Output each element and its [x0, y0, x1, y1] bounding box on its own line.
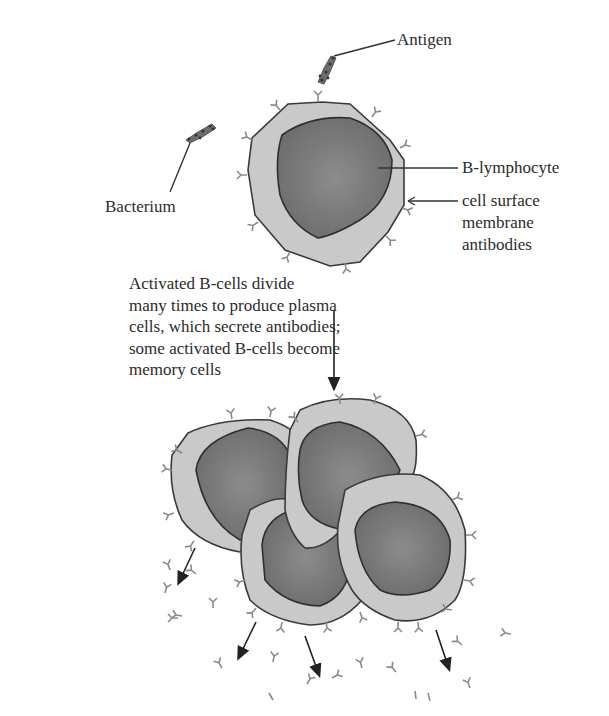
caption-line-5: memory cells: [129, 359, 340, 381]
surface-antibodies-line-3: antibodies: [462, 234, 540, 256]
antigen-label: Antigen: [397, 29, 452, 51]
surface-antibodies-line-2: membrane: [462, 212, 540, 234]
bacterium-particle: [186, 124, 216, 143]
caption-line-2: many times to produce plasma: [129, 295, 340, 317]
surface-antibodies-line-1: cell surface: [462, 190, 540, 212]
plasma-cell-cluster: [161, 393, 476, 632]
caption-line-3: cells, which secrete antibodies;: [129, 316, 340, 338]
caption-line-4: some activated B-cells become: [129, 338, 340, 360]
caption-line-1: Activated B-cells divide: [129, 273, 340, 295]
bacterium-leader-line: [170, 143, 190, 192]
bacterium-label: Bacterium: [105, 196, 176, 218]
surface-antibodies-label: cell surface membrane antibodies: [462, 190, 540, 256]
b-lymphocyte-cell: [237, 91, 413, 274]
activation-caption: Activated B-cells divide many times to p…: [129, 273, 340, 381]
antigen-particle: [318, 56, 336, 84]
b-lymphocyte-label: B-lymphocyte: [462, 157, 559, 179]
antigen-leader-line: [334, 40, 395, 56]
